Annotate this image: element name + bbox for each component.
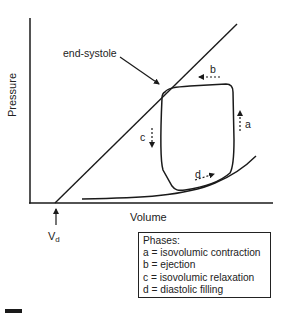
vd-label-subscript: d — [55, 235, 59, 244]
legend-item-a: a = isovolumic contraction — [143, 247, 266, 259]
end-diastolic-pv-curve — [82, 156, 256, 199]
phases-legend: Phases: a = isovolumic contraction b = e… — [138, 232, 271, 298]
scale-bar — [5, 309, 22, 313]
legend-item-b: b = ejection — [143, 259, 266, 271]
end-systole-arrow — [120, 57, 159, 84]
x-axis-label: Volume — [130, 211, 167, 223]
phase-a-label: a — [245, 118, 251, 130]
legend-item-d: d = diastolic filling — [143, 284, 266, 296]
legend-title: Phases: — [143, 235, 266, 247]
legend-item-c: c = isovolumic relaxation — [143, 272, 266, 284]
phase-d-label: d — [195, 168, 201, 180]
phase-c-label: c — [140, 131, 145, 143]
y-axis-label: Pressure — [6, 73, 18, 117]
phase-b-label: b — [210, 63, 216, 75]
end-systole-label: end-systole — [63, 47, 117, 59]
vd-label: Vd — [48, 230, 60, 244]
